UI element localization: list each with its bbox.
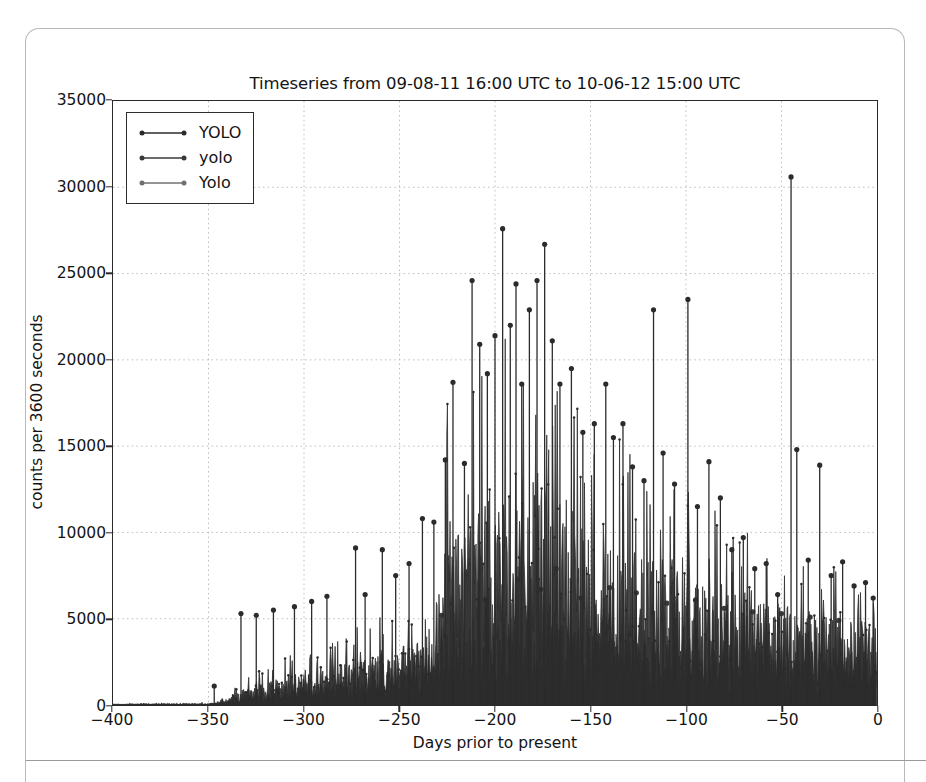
x-tick-label-7: −50 (766, 711, 799, 729)
x-tick-label-1: −350 (186, 711, 229, 729)
y-axis-label: counts per 3600 seconds (28, 297, 46, 527)
x-tick-label-0: −400 (91, 711, 134, 729)
legend-line-sample-0 (137, 126, 189, 140)
legend-label-0: YOLO (199, 123, 241, 142)
y-tick-label-5: 25000 (20, 264, 106, 282)
y-tick-label-7: 35000 (20, 91, 106, 109)
x-tick-label-3: −250 (378, 711, 421, 729)
x-tick-label-6: −100 (665, 711, 708, 729)
x-tick-label-8: 0 (873, 711, 883, 729)
legend-item-1: yolo (137, 145, 241, 170)
legend-line-sample-2 (137, 176, 189, 190)
chart-legend: YOLOyoloYolo (126, 112, 254, 204)
legend-item-0: YOLO (137, 120, 241, 145)
y-tick-label-1: 5000 (20, 610, 106, 628)
legend-label-1: yolo (199, 148, 233, 167)
y-tick-label-6: 30000 (20, 178, 106, 196)
x-tick-label-2: −300 (282, 711, 325, 729)
legend-item-2: Yolo (137, 170, 241, 195)
x-tick-label-4: −200 (474, 711, 517, 729)
legend-line-sample-1 (137, 151, 189, 165)
page-divider (26, 760, 926, 761)
x-axis-label: Days prior to present (112, 734, 878, 752)
x-tick-label-5: −150 (569, 711, 612, 729)
chart-figure: Timeseries from 09-08-11 16:00 UTC to 10… (0, 0, 926, 760)
chart-title: Timeseries from 09-08-11 16:00 UTC to 10… (112, 74, 878, 93)
series-yolo-0 (113, 174, 877, 705)
legend-label-2: Yolo (199, 173, 231, 192)
x-axis-tick-labels: −400−350−300−250−200−150−100−500 (112, 711, 878, 735)
